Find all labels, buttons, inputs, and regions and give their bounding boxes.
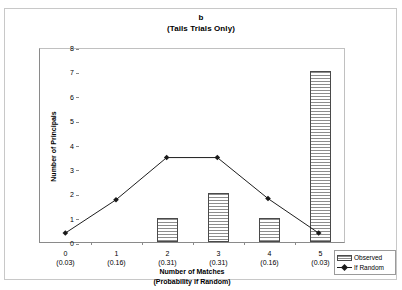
legend-bar-swatch-icon xyxy=(337,255,352,261)
x-tick-mark xyxy=(244,242,245,245)
plot-inner: 012345678 0(0.03)1(0.16)2(0.31)3(0.31)4(… xyxy=(40,49,344,242)
x-tick-mark xyxy=(142,242,143,245)
x-axis-category: 1 xyxy=(91,249,142,258)
x-tick-mark xyxy=(91,242,92,245)
x-axis-label: 3(0.31) xyxy=(193,249,244,267)
x-axis-label: 0(0.03) xyxy=(40,249,91,267)
line-marker xyxy=(63,230,69,236)
legend-item-if-random: If Random xyxy=(337,263,393,272)
chart-subtitle: (Tails Trials Only) xyxy=(0,24,402,34)
x-axis-title: Number of Matches (Probability if Random… xyxy=(39,267,345,286)
x-axis-label: 1(0.16) xyxy=(91,249,142,267)
x-axis-category: 2 xyxy=(142,249,193,258)
chart-figure: b (Tails Trials Only) Number of Principa… xyxy=(0,0,402,290)
line-marker xyxy=(316,230,322,236)
x-axis-category: 3 xyxy=(193,249,244,258)
legend-line-swatch-icon xyxy=(337,264,352,271)
x-axis-label: 2(0.31) xyxy=(142,249,193,267)
chart-legend: Observed If Random xyxy=(334,250,396,275)
x-tick-mark xyxy=(193,242,194,245)
legend-label-if-random: If Random xyxy=(354,264,384,272)
line-series-if-random xyxy=(40,49,344,242)
line-path xyxy=(65,158,318,234)
x-axis-label: 4(0.16) xyxy=(244,249,295,267)
x-tick-mark xyxy=(295,242,296,245)
x-axis-category: 0 xyxy=(40,249,91,258)
x-axis-title-line2: (Probability if Random) xyxy=(39,277,345,287)
plot-area: Number of Principals 012345678 0(0.03)1(… xyxy=(39,48,345,243)
x-axis-title-line1: Number of Matches xyxy=(160,268,225,275)
x-axis-probability: (0.31) xyxy=(193,258,244,267)
x-axis-category: 4 xyxy=(244,249,295,258)
x-axis-probability: (0.16) xyxy=(244,258,295,267)
legend-item-observed: Observed xyxy=(337,253,393,262)
legend-label-observed: Observed xyxy=(354,254,382,262)
x-axis-probability: (0.16) xyxy=(91,258,142,267)
chart-title: b xyxy=(0,13,402,23)
x-axis-probability: (0.03) xyxy=(40,258,91,267)
x-axis-probability: (0.31) xyxy=(142,258,193,267)
y-tick-mark xyxy=(76,244,79,245)
